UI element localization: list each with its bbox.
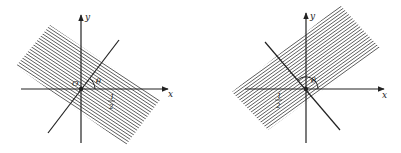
right-figure: y x θ 1 2 <box>200 0 401 153</box>
right-hatched-region <box>200 0 401 153</box>
right-origin-dot <box>304 87 308 91</box>
left-origin-dot <box>79 87 83 91</box>
right-y-label: y <box>309 11 316 21</box>
left-angle-label: θ <box>96 77 101 86</box>
diagram-canvas: y x O θ 1 2 y x θ 1 2 <box>0 0 401 153</box>
left-fraction-numerator: 1 <box>110 93 114 101</box>
left-fraction-denominator: 2 <box>108 103 114 111</box>
right-x-label: x <box>382 90 387 100</box>
left-origin-label: O <box>72 79 79 88</box>
left-x-label: x <box>168 89 173 99</box>
right-fraction-denominator: 2 <box>275 102 281 110</box>
left-figure: y x O θ 1 2 <box>0 0 200 153</box>
right-fraction-numerator: 1 <box>277 92 281 100</box>
right-angle-label: θ <box>311 76 316 85</box>
left-y-label: y <box>84 12 91 22</box>
right-boundary-line <box>265 42 340 130</box>
